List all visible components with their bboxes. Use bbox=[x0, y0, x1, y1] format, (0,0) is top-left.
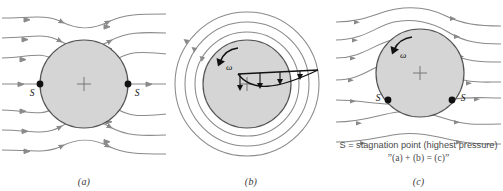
omega-label-c: ω bbox=[400, 50, 406, 60]
caption-line-stagnation: S = stagnation point (highest pressure) bbox=[334, 139, 503, 152]
stagnation-label-rear-a: S bbox=[135, 88, 140, 98]
panel-label-c: (c) bbox=[334, 176, 503, 187]
panel-b-diagram: ω bbox=[168, 0, 334, 191]
panel-label-b: (b) bbox=[168, 176, 334, 187]
stagnation-point-front-a bbox=[37, 81, 44, 88]
panel-a-diagram: S S bbox=[0, 0, 168, 191]
stagnation-point-rear-a bbox=[125, 81, 132, 88]
panel-label-a: (a) bbox=[0, 176, 168, 187]
figure-caption: S = stagnation point (highest pressure) … bbox=[334, 139, 503, 164]
caption-line-equation: ”(a) + (b) = (c)” bbox=[334, 152, 503, 165]
vortex-arrowheads-b bbox=[184, 39, 206, 62]
panel-b-vortex-flow: ω (b) bbox=[168, 0, 334, 191]
fluid-flow-figure: S S (a) ω bbox=[0, 0, 503, 191]
panel-a-uniform-flow: S S (a) bbox=[0, 0, 168, 191]
stagnation-label-front-c: S bbox=[376, 93, 381, 103]
stagnation-point-rear-c bbox=[449, 97, 456, 104]
stagnation-label-front-a: S bbox=[30, 88, 35, 98]
stagnation-point-front-c bbox=[385, 97, 392, 104]
stagnation-label-rear-c: S bbox=[461, 93, 466, 103]
omega-label-b: ω bbox=[226, 62, 232, 72]
